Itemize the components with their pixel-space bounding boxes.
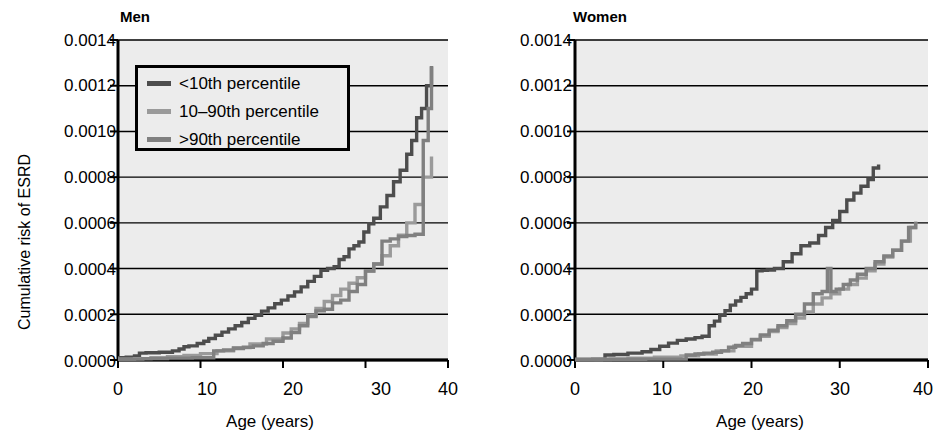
chart-panel-men: Men Cumulative risk of ESRD 0.0014 0.001… xyxy=(0,0,470,439)
plot-area-women xyxy=(460,0,939,439)
chart-panel-women: Women 0.0014 0.0012 0.0010 0.0008 0.0006… xyxy=(460,0,939,439)
legend-label: <10th percentile xyxy=(179,75,300,92)
legend-item: >90th percentile xyxy=(138,126,347,152)
figure-container: Men Cumulative risk of ESRD 0.0014 0.001… xyxy=(0,0,939,439)
legend-label: >90th percentile xyxy=(179,131,300,148)
legend-swatch-10to90 xyxy=(147,109,171,114)
legend-men: <10th percentile 10–90th percentile >90t… xyxy=(135,65,350,151)
legend-item: <10th percentile xyxy=(138,70,347,96)
legend-swatch-gt90 xyxy=(147,137,171,142)
legend-item: 10–90th percentile xyxy=(138,98,347,124)
legend-label: 10–90th percentile xyxy=(179,103,319,120)
legend-swatch-lt10 xyxy=(147,81,171,86)
